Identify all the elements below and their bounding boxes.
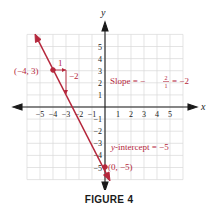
point-neg4-3 <box>51 68 56 73</box>
y-tick-label: −2 <box>93 127 102 136</box>
run-label: 1 <box>58 58 63 68</box>
point-0-neg5 <box>103 165 108 170</box>
y-tick-label: 1 <box>98 91 102 100</box>
x-tick-label: −5 <box>36 110 45 119</box>
y-tick-label: 5 <box>98 43 102 52</box>
slope-prefix: Slope = − <box>110 76 145 86</box>
y-tick-label: −3 <box>93 139 102 148</box>
slope-denominator: 1 <box>165 83 168 89</box>
y-axis-up-arrow-icon <box>102 22 108 31</box>
y-tick-label: 4 <box>98 55 102 64</box>
slope-result: = −2 <box>172 76 189 86</box>
slope-label: Slope = − <box>110 76 145 86</box>
x-axis-right-arrow-icon <box>188 104 197 110</box>
y-tick-label: 2 <box>98 79 102 88</box>
y-axis-down-arrow-icon <box>102 182 108 190</box>
coordinate-graph: y x −5−4−3−2−112345−5−4−3−2−112345 (−4, … <box>0 0 218 190</box>
y-tick-label: 3 <box>98 67 102 76</box>
rise-label: −2 <box>69 71 79 81</box>
y-tick-label: −5 <box>93 164 102 173</box>
y-axis-label: y <box>100 7 106 18</box>
intercept-label: y-intercept = −5 <box>110 142 169 152</box>
slope-numerator: 2 <box>165 75 168 81</box>
x-tick-label: −3 <box>62 110 71 119</box>
point-a-label: (−4, 3) <box>14 66 39 76</box>
figure-caption: FIGURE 4 <box>0 194 218 205</box>
x-axis-left-arrow-icon <box>13 104 22 110</box>
point-b-label: (0, −5) <box>108 162 133 172</box>
x-tick-label: 2 <box>129 110 133 119</box>
x-tick-label: 5 <box>168 110 172 119</box>
x-axis-label: x <box>200 101 206 112</box>
y-tick-label: −1 <box>93 115 102 124</box>
run-arrow-icon <box>62 68 66 72</box>
x-tick-label: 1 <box>116 110 120 119</box>
intercept-rest: -intercept = −5 <box>115 142 169 152</box>
x-tick-label: 4 <box>155 110 159 119</box>
x-tick-label: 3 <box>142 110 146 119</box>
x-tick-label: −4 <box>49 110 58 119</box>
